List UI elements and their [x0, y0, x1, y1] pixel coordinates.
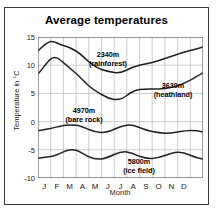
- annotation-4970m: 4970m (bare rock): [65, 106, 102, 124]
- y-tick-label: 0: [31, 117, 35, 126]
- y-tick-label: 10: [27, 61, 35, 70]
- annotation-zone: (ice field): [123, 166, 155, 175]
- annotation-3630m: 3630m (heathland): [154, 81, 193, 99]
- y-tick-label: 5: [31, 89, 35, 98]
- chart-figure: Average temperatures Temperature in °C: [4, 7, 209, 205]
- x-axis-label: Month: [35, 188, 205, 197]
- annotation-altitude: 5800m: [123, 157, 155, 166]
- y-tick-label: -5: [28, 145, 35, 154]
- chart-title: Average temperatures: [5, 14, 208, 26]
- annotation-zone: (bare rock): [65, 115, 102, 124]
- y-tick-label: 15: [27, 33, 35, 42]
- y-tick-label: -10: [24, 174, 35, 183]
- annotation-2340m: 2340m (rainforest): [89, 50, 127, 68]
- annotation-altitude: 3630m: [154, 81, 193, 90]
- y-axis-label: Temperature in °C: [12, 56, 21, 146]
- annotation-altitude: 4970m: [65, 106, 102, 115]
- annotation-zone: (rainforest): [89, 59, 127, 68]
- annotation-zone: (heathland): [154, 90, 193, 99]
- annotation-5800m: 5800m (ice field): [123, 157, 155, 175]
- annotation-altitude: 2340m: [89, 50, 127, 59]
